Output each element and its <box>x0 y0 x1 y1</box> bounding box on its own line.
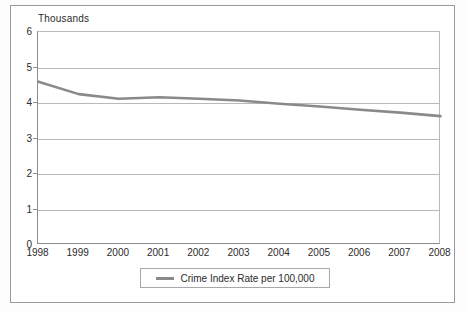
x-axis-tick-label: 1999 <box>67 247 89 258</box>
x-axis-tick-label: 2003 <box>227 247 249 258</box>
plot-area <box>37 31 440 244</box>
y-axis-tick-label: 6 <box>26 26 32 37</box>
series-line-crime-index-rate <box>39 82 441 116</box>
x-axis-tick-label: 2006 <box>348 247 370 258</box>
x-axis-tick-label: 2008 <box>428 247 450 258</box>
y-axis-tick-mark <box>33 209 37 210</box>
y-axis-tick-mark <box>33 138 37 139</box>
y-axis-tick-label: 1 <box>26 203 32 214</box>
y-axis-unit-label: Thousands <box>38 13 89 24</box>
y-axis-tick-label: 3 <box>26 132 32 143</box>
x-axis-tick-label: 2000 <box>107 247 129 258</box>
chart-figure: Thousands 0123456 1998199920002001200220… <box>0 0 467 313</box>
y-axis-tick-mark <box>33 173 37 174</box>
legend: Crime Index Rate per 100,000 <box>140 268 330 288</box>
y-axis-tick-label: 2 <box>26 168 32 179</box>
x-axis-tick-label: 1998 <box>26 247 48 258</box>
x-axis-tick-label: 2001 <box>147 247 169 258</box>
x-axis-tick-label: 2007 <box>388 247 410 258</box>
y-axis-tick-label: 5 <box>26 61 32 72</box>
y-axis-tick-label: 4 <box>26 97 32 108</box>
series-layer <box>38 32 441 245</box>
y-axis-tick-labels: 0123456 <box>14 31 32 244</box>
y-axis-tick-mark <box>33 102 37 103</box>
x-axis-tick-label: 2004 <box>268 247 290 258</box>
legend-label: Crime Index Rate per 100,000 <box>181 273 315 284</box>
y-axis-tick-mark <box>33 67 37 68</box>
legend-line-swatch-icon <box>156 277 174 280</box>
x-axis-tick-labels: 1998199920002001200220032004200520062007… <box>37 247 440 263</box>
x-axis-tick-label: 2005 <box>308 247 330 258</box>
x-axis-tick-label: 2002 <box>187 247 209 258</box>
